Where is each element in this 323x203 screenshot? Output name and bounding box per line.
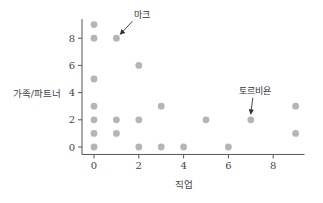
data-point [203,116,210,123]
arrow-icon [120,21,132,34]
y-tick-label: 2 [69,114,75,125]
y-tick-label: 0 [69,142,75,153]
data-point [91,76,98,83]
data-point [247,116,254,123]
data-point [292,130,299,137]
data-point [292,103,299,110]
annotation-torbjorn: 토르비욘 [239,86,271,96]
x-tick-label: 4 [180,160,186,171]
data-point [135,144,142,151]
data-point [113,130,120,137]
scatter-chart: 0246802468 마크토르비욘 직업 가족/파트너 [0,0,323,203]
data-point [91,144,98,151]
data-point [135,116,142,123]
data-point [91,21,98,28]
data-point [158,144,165,151]
data-point [91,130,98,137]
y-tick-label: 4 [69,87,75,98]
x-tick-label: 0 [91,160,97,171]
annotations: 마크토르비욘 [120,10,270,114]
data-point [91,103,98,110]
annotation-mark: 마크 [134,10,150,20]
y-tick-label: 8 [69,33,75,44]
data-point [113,35,120,42]
data-point [91,116,98,123]
x-tick-label: 2 [136,160,142,171]
data-point [158,103,165,110]
data-point [91,35,98,42]
x-tick-label: 6 [225,160,231,171]
y-axis-label: 가족/파트너 [13,88,61,99]
x-axis-label: 직업 [175,179,193,190]
data-point [180,144,187,151]
y-tick-label: 6 [69,60,75,71]
arrow-icon [251,98,253,114]
data-point [113,116,120,123]
x-tick-label: 8 [270,160,276,171]
data-point [225,144,232,151]
data-point [135,62,142,69]
